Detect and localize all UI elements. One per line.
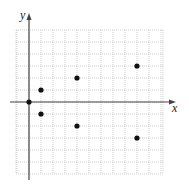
data-point xyxy=(74,75,79,80)
data-point xyxy=(74,123,79,128)
data-point xyxy=(134,135,139,140)
y-axis-label: y xyxy=(20,8,25,23)
data-point xyxy=(38,87,43,92)
axes xyxy=(10,13,176,180)
x-axis-label: x xyxy=(172,101,177,116)
data-point xyxy=(134,63,139,68)
data-point xyxy=(26,99,31,104)
y-axis-arrow-icon xyxy=(27,13,32,20)
scatter-plot xyxy=(0,0,189,188)
data-point xyxy=(38,111,43,116)
